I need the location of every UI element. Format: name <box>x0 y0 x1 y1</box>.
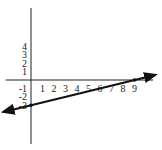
x-tick-label: 8 <box>121 83 126 94</box>
data-point <box>133 78 137 82</box>
x-tick-label: 3 <box>63 83 68 94</box>
x-tick-label: 9 <box>132 83 137 94</box>
y-tick-label: 1 <box>22 66 27 77</box>
x-tick-label: 4 <box>75 83 80 94</box>
chart-container: 123456789 4321-1-2-3 <box>0 0 162 150</box>
coordinate-plane: 123456789 4321-1-2-3 <box>0 0 162 150</box>
y-tick-label: -3 <box>19 100 27 111</box>
x-tick-label: 2 <box>52 83 57 94</box>
x-tick-label: 1 <box>40 83 45 94</box>
data-point <box>29 103 33 107</box>
